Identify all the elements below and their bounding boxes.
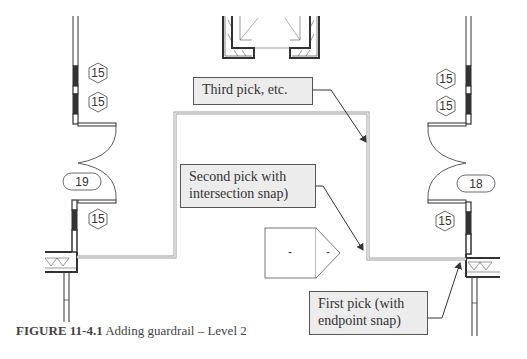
section-marker-left: - <box>288 245 292 259</box>
callout-line-2: intersection snap) <box>189 185 307 202</box>
figure-caption: FIGURE 11-4.1 Adding guardrail – Level 2 <box>16 323 247 339</box>
callout-line-2: endpoint snap) <box>318 312 419 329</box>
figure-title: Adding guardrail – Level 2 <box>105 323 247 338</box>
hex-tag-label: 15 <box>89 212 107 226</box>
callout-line-1: First pick (with <box>318 295 419 312</box>
callout-third-pick: Third pick, etc. <box>193 77 313 105</box>
callout-first-pick: First pick (with endpoint snap) <box>309 291 428 335</box>
hex-tag-label: 15 <box>436 214 454 228</box>
callout-text: Third pick, etc. <box>202 82 288 97</box>
left-wall <box>45 16 116 322</box>
figure-label: FIGURE <box>16 323 67 338</box>
callout-line-1: Second pick with <box>189 168 307 185</box>
hex-tag-label: 15 <box>89 95 107 109</box>
top-structure <box>223 16 319 58</box>
hex-tag-label: 15 <box>89 66 107 80</box>
hex-tag-label: 15 <box>437 72 455 86</box>
section-marker-right: - <box>326 245 330 259</box>
room-tag-18: 18 <box>457 177 495 191</box>
hex-tag-label: 15 <box>437 99 455 113</box>
room-tag-19: 19 <box>63 175 101 189</box>
figure-number: 11-4.1 <box>70 323 103 338</box>
callout-second-pick: Second pick with intersection snap) <box>180 164 316 208</box>
